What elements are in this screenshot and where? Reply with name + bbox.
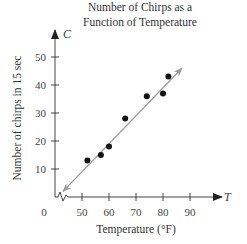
y-tick-label: 50 [35,51,47,63]
data-point [98,152,104,158]
data-point [144,93,150,99]
best-fit-line [63,68,182,191]
x-tick-label: 60 [104,206,116,218]
x-tick-label: 80 [158,206,170,218]
y-axis-title: Number of chirps in 15 sec [11,56,24,181]
origin-label: 0 [41,206,47,218]
y-variable-label: C [63,27,72,41]
y-tick-label: 40 [35,79,47,91]
data-point [84,158,90,164]
data-point [122,116,128,122]
data-point [160,90,166,96]
y-tick-label: 10 [35,163,47,175]
y-tick-label: 20 [35,135,47,147]
x-axis-title: Temperature (°F) [96,223,176,236]
scatter-plot: 1020304050 5060708090 0 C T Temperature … [0,0,247,244]
data-point [165,74,171,80]
data-point [106,144,112,150]
x-axis [55,192,222,201]
y-tick-label: 30 [35,107,47,119]
x-variable-label: T [224,190,232,204]
x-tick-label: 70 [131,206,143,218]
x-tick-label: 90 [185,206,197,218]
x-tick-label: 50 [77,206,89,218]
data-points [84,74,171,164]
